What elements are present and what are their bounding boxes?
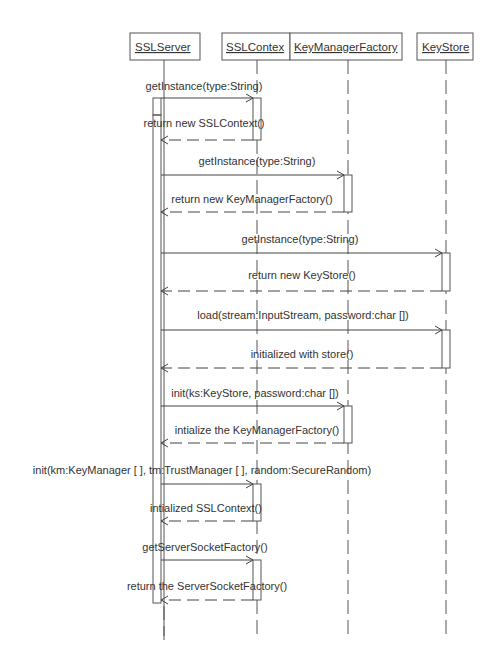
message-call-6: init(km:KeyManager [ ], tm:TrustManager … — [33, 464, 371, 488]
object-label: KeyManagerFactory — [294, 41, 398, 53]
message-return-6: intialized SSLContext() — [150, 502, 262, 525]
object-keystore[interactable]: KeyStore — [417, 33, 473, 60]
message-label: initialized with store() — [251, 348, 354, 360]
sequence-diagram: SSLServer SSLContex KeyManagerFactory Ke… — [0, 0, 498, 663]
message-label: getInstance(type:String) — [242, 233, 359, 245]
message-return-2: return new KeyManagerFactory() — [161, 193, 344, 216]
message-label: getInstance(type:String) — [199, 155, 316, 167]
activation-kmf-1 — [344, 175, 352, 212]
object-sslcontext[interactable]: SSLContex — [222, 33, 290, 60]
message-return-7: return the ServerSocketFactory() — [127, 580, 287, 604]
message-label: getServerSocketFactory() — [142, 541, 267, 553]
message-label: getInstance(type:String) — [146, 80, 263, 92]
object-label: SSLServer — [135, 41, 191, 53]
message-return-3: return new KeyStore() — [161, 269, 442, 295]
activation-kmf-2 — [344, 406, 352, 443]
activation-keystore-2 — [442, 330, 450, 368]
message-call-3: getInstance(type:String) — [161, 233, 442, 257]
message-call-4: load(stream:InputStream, password:char [… — [161, 309, 442, 334]
message-label: return new KeyManagerFactory() — [171, 193, 332, 205]
object-label: SSLContex — [226, 41, 284, 53]
object-sslserver[interactable]: SSLServer — [130, 33, 200, 60]
message-return-1: return new SSLContext() — [143, 117, 264, 144]
activation-keystore-1 — [442, 253, 450, 291]
message-label: intialized SSLContext() — [150, 502, 262, 514]
message-label: load(stream:InputStream, password:char [… — [197, 309, 409, 321]
message-call-1: getInstance(type:String) — [146, 80, 263, 102]
message-label: intialize the KeyManagerFactory() — [175, 424, 339, 436]
message-label: return the ServerSocketFactory() — [127, 580, 287, 592]
message-label: init(ks:KeyStore, password:char []) — [171, 387, 339, 399]
message-return-4: initialized with store() — [161, 348, 442, 372]
activation-sslserver-first — [153, 98, 161, 115]
message-call-5: init(ks:KeyStore, password:char []) — [161, 387, 344, 410]
message-label: init(km:KeyManager [ ], tm:TrustManager … — [33, 464, 371, 476]
activation-sslserver-long — [153, 115, 161, 603]
message-call-2: getInstance(type:String) — [161, 155, 344, 179]
object-label: KeyStore — [422, 41, 469, 53]
message-return-5: intialize the KeyManagerFactory() — [161, 424, 344, 447]
message-label: return new KeyStore() — [248, 269, 356, 281]
object-keymanagerfactory[interactable]: KeyManagerFactory — [290, 33, 402, 60]
message-label: return new SSLContext() — [143, 117, 264, 129]
